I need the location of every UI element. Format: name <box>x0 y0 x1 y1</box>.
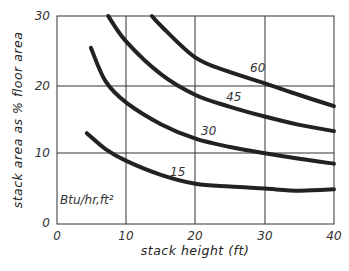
y-axis-title: stack area as % floor area <box>10 32 25 209</box>
x-tick-30: 30 <box>257 229 273 243</box>
data-curves <box>87 16 334 191</box>
curve-label-30: 30 <box>201 124 217 138</box>
x-tick-0: 0 <box>53 229 61 243</box>
curve-label-60: 60 <box>250 61 266 75</box>
y-tick-30: 30 <box>35 9 51 23</box>
y-tick-10: 10 <box>35 146 51 160</box>
curve-label-45: 45 <box>226 90 241 104</box>
y-tick-20: 20 <box>35 79 51 93</box>
x-tick-labels: 0 10 20 30 40 <box>53 229 342 243</box>
x-axis-title: stack height (ft) <box>141 243 250 258</box>
y-tick-0: 0 <box>42 216 50 230</box>
y-tick-labels: 30 20 10 0 <box>35 9 51 230</box>
curve-label-15: 15 <box>170 165 185 179</box>
x-tick-10: 10 <box>118 229 134 243</box>
x-tick-40: 40 <box>326 229 342 243</box>
curve-60 <box>152 16 334 106</box>
units-label: Btu/hr,ft² <box>60 193 114 207</box>
x-tick-20: 20 <box>187 229 203 243</box>
stack-area-chart: 30 20 10 0 0 10 20 30 40 60 45 30 15 Btu… <box>0 0 349 271</box>
